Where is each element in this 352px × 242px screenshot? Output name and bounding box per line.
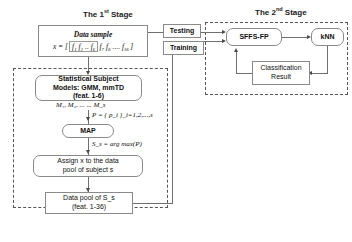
testing-label-box: Testing [163,24,201,38]
knn-label: kNN [320,33,334,42]
formula-feature-group-1: f₁ f₂ .. f₆ [69,41,98,52]
statistical-models-line-1: Statistical Subject [58,75,118,84]
statistical-models-box: Statistical Subject Models: GMM, mmTD (f… [35,75,142,101]
data-pool-line-1: Data pool of S_s [63,194,115,203]
connector-knn-to-classification [311,73,328,74]
assign-line-2: pool of subject s [63,166,114,175]
arrowhead-models-to-map [86,117,90,121]
knn-box: kNN [311,28,344,46]
stage-2-title-prefix: The 2 [255,8,276,17]
classification-line-2: Result [271,73,291,82]
connector-feedback-up [236,52,237,73]
formula-lhs: x = [ [53,42,68,51]
stage-2-title-sup: nd [276,6,283,12]
arrowhead-map-to-assign [86,150,90,154]
sffs-fp-label: SFFS-FP [239,33,268,42]
connector-pool-to-right [133,203,173,204]
assign-line-1: Assign x to the data [57,157,118,166]
data-pool-line-2: (feat. 1-36) [72,203,106,212]
data-sample-formula: x = [ f₁ f₂ .. f₆ f₇ f₈ .... f₃₆ ] [53,41,133,52]
stage-1-title: The 1st Stage [83,8,133,19]
arrowhead-feedback-to-sffs [234,48,238,52]
stage-2-title-suffix: Stage [283,8,307,17]
statistical-models-line-2: Models: GMM, mmTD [53,84,124,93]
formula-feature-group-2: f₇ f₈ .... f₃₆ [99,42,129,51]
formula-rhs: ] [130,42,133,51]
statistical-models-line-3: (feat. 1-6) [73,92,104,101]
models-list-label: M₁, M₂, ... ... M_s [56,101,106,109]
argmax-label: S_s = arg max(P) [92,140,142,148]
sffs-fp-box: SFFS-FP [226,28,282,46]
connector-knn-down [327,46,328,73]
classification-result-box: Classification Result [252,61,310,85]
data-sample-label: Data sample [74,30,113,39]
training-label: Training [170,44,197,53]
connector-classification-left [236,73,252,74]
map-label: MAP [80,127,96,136]
stage-1-title-suffix: Stage [109,10,133,19]
map-box: MAP [62,124,114,138]
testing-label: Testing [170,27,194,36]
data-sample-box: Data sample x = [ f₁ f₂ .. f₆ f₇ f₈ ....… [38,25,148,57]
training-label-box: Training [163,41,204,55]
connector-training-vertical [172,41,173,203]
probability-label: P = { p_i }_i=1,2,...,s [92,111,153,119]
assign-box: Assign x to the data pool of subject s [33,155,143,177]
connector-sffs-to-knn [282,37,309,38]
classification-line-1: Classification [260,64,301,73]
diagram-canvas: The 1st Stage The 2nd Stage Data sample … [0,0,352,242]
stage-2-title: The 2nd Stage [255,6,307,17]
stage-1-title-prefix: The 1 [83,10,104,19]
data-pool-box: Data pool of S_s (feat. 1-36) [45,192,133,214]
